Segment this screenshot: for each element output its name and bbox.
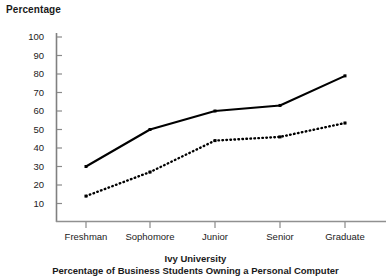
x-tick-label-freshman: Freshman — [65, 231, 108, 242]
axis-lines — [56, 33, 386, 222]
x-tick-label-senior: Senior — [266, 231, 293, 242]
data-point — [279, 104, 282, 107]
data-point — [149, 171, 152, 174]
chart-subtitle: Percentage of Business Students Owning a… — [0, 265, 391, 277]
series-line-solid — [86, 76, 345, 167]
data-point — [85, 195, 88, 198]
x-axis-ticks — [86, 222, 345, 228]
series-line-dotted — [86, 123, 345, 196]
data-point — [279, 135, 282, 138]
x-tick-label-graduate: Graduate — [325, 231, 365, 242]
data-point — [214, 139, 217, 142]
series-markers-dotted — [85, 122, 347, 198]
data-point — [214, 110, 217, 113]
data-point — [149, 128, 152, 131]
data-point — [344, 122, 347, 125]
data-point — [85, 165, 88, 168]
data-point — [344, 74, 347, 77]
x-tick-label-sophomore: Sophomore — [125, 231, 174, 242]
series-markers-solid — [85, 74, 347, 168]
x-tick-label-junior: Junior — [202, 231, 228, 242]
line-chart: Percentage 100 90 80 70 60 50 40 30 20 1… — [0, 0, 391, 279]
y-axis-ticks — [57, 37, 62, 204]
chart-title: Ivy University — [0, 253, 391, 265]
